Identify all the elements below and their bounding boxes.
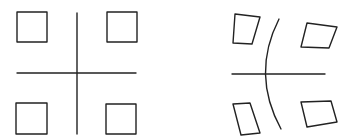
distorted-quad-bottom-left bbox=[233, 103, 260, 135]
distorted-grid-panel bbox=[232, 14, 337, 135]
distorted-quad-top-left bbox=[233, 14, 260, 44]
square-bottom-right bbox=[106, 104, 136, 134]
square-top-right bbox=[107, 12, 137, 42]
diagram-svg bbox=[0, 0, 354, 140]
distorted-quad-top-right bbox=[301, 23, 337, 48]
undistorted-grid-panel bbox=[16, 12, 137, 134]
distorted-quad-bottom-right bbox=[301, 101, 337, 127]
distortion-diagram bbox=[0, 0, 354, 140]
square-top-left bbox=[17, 12, 47, 42]
square-bottom-left bbox=[16, 103, 47, 134]
